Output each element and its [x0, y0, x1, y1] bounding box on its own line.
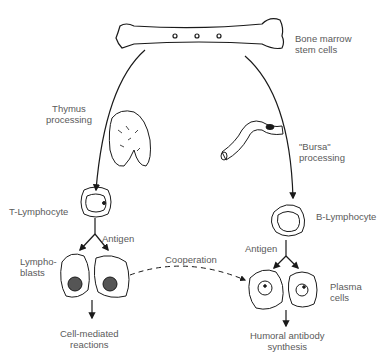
label-bone-marrow: Bone marrow stem cells — [295, 33, 352, 55]
label-lymphoblasts: Lympho- blasts — [20, 256, 57, 278]
b-lymphocyte-cell — [271, 205, 304, 236]
plasma-cells — [249, 270, 317, 309]
thymus-icon — [109, 111, 150, 166]
label-t-lymphocyte: T-Lymphocyte — [9, 206, 68, 217]
bone-icon — [116, 19, 284, 49]
label-thymus: Thymus processing — [46, 103, 92, 125]
bursa-icon — [221, 121, 283, 160]
label-plasma-cells: Plasma cells — [330, 281, 362, 303]
label-cell-mediated: Cell-mediated reactions — [60, 328, 119, 350]
label-humoral: Humoral antibody synthesis — [250, 330, 324, 352]
label-bursa: "Bursa" processing — [299, 141, 345, 163]
lymphoblast-cells — [61, 254, 129, 297]
t-lymphocyte-cell — [81, 187, 111, 217]
cooperation-arrow — [130, 266, 245, 280]
label-antigen-right: Antigen — [245, 243, 277, 254]
label-cooperation: Cooperation — [165, 254, 217, 265]
label-b-lymphocyte: B-Lymphocyte — [316, 211, 376, 222]
flow-arrow-left — [96, 50, 145, 190]
label-antigen-left: Antigen — [102, 233, 134, 244]
